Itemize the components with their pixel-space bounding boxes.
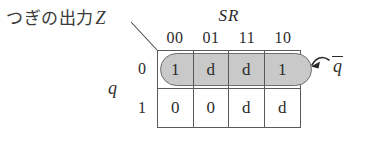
next-output-label: つぎの出力Z	[6, 7, 106, 29]
output-variable-z: Z	[94, 8, 107, 28]
cell-q0-sr01: d	[194, 51, 230, 89]
group-label-variable: q	[332, 58, 343, 74]
column-variable-label: SR	[157, 6, 301, 26]
arrow-head	[311, 62, 320, 69]
cell-q0-sr00: 1	[158, 51, 194, 89]
row-header-1: 1	[133, 99, 151, 117]
row-header-0: 0	[133, 60, 151, 78]
cell-q1-sr01: 0	[194, 89, 230, 127]
cell-q0-sr11: d	[229, 51, 265, 89]
kmap-grid: 1 d d 1 0 0 d d	[157, 50, 301, 128]
cell-q1-sr00: 0	[158, 89, 194, 127]
column-header-10: 10	[265, 29, 301, 47]
next-output-text: つぎの出力	[6, 8, 94, 28]
column-header-00: 00	[157, 29, 193, 47]
group-label-q-bar: q	[332, 56, 343, 74]
arrow-curve	[312, 58, 329, 65]
leader-line	[131, 22, 157, 50]
column-header-11: 11	[229, 29, 265, 47]
cell-q0-sr10: 1	[265, 51, 301, 89]
cell-q1-sr11: d	[229, 89, 265, 127]
column-header-01: 01	[193, 29, 229, 47]
cell-q1-sr10: d	[265, 89, 301, 127]
kmap-diagram: つぎの出力Z SR 00 01 11 10 q 0 1 1 d d 1 0 0 …	[0, 0, 375, 163]
row-variable-label: q	[108, 78, 117, 99]
column-headers: 00 01 11 10	[157, 29, 301, 47]
